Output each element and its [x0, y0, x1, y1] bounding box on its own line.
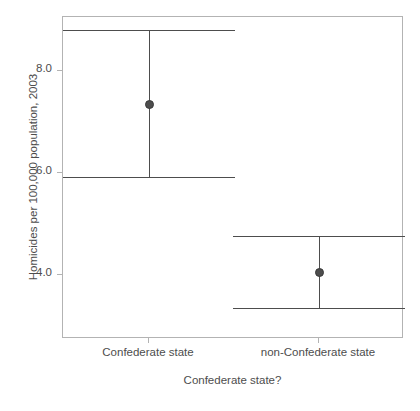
chart-figure: Homicides per 100,000 population, 2003 8… [0, 0, 420, 411]
data-point-estimate [315, 268, 324, 277]
errorbar-cap-lower [63, 177, 235, 178]
data-point-estimate [145, 100, 154, 109]
x-axis-title: Confederate state? [62, 374, 403, 386]
y-axis-title: Homicides per 100,000 population, 2003 [22, 7, 44, 347]
y-tick-label-8: 8.0 [36, 62, 52, 74]
errorbar-cap-lower [233, 308, 405, 309]
x-tick-mark [318, 338, 319, 343]
x-tick-mark [148, 338, 149, 343]
y-tick-label-4: 4.0 [36, 266, 52, 278]
y-tick-label-6: 6.0 [36, 164, 52, 176]
errorbar-cap-upper [233, 236, 405, 237]
errorbar-cap-upper [63, 30, 235, 31]
x-tick-label-non-confederate-state: non-Confederate state [208, 346, 420, 358]
plot-area [63, 17, 402, 337]
plot-panel [62, 16, 403, 338]
